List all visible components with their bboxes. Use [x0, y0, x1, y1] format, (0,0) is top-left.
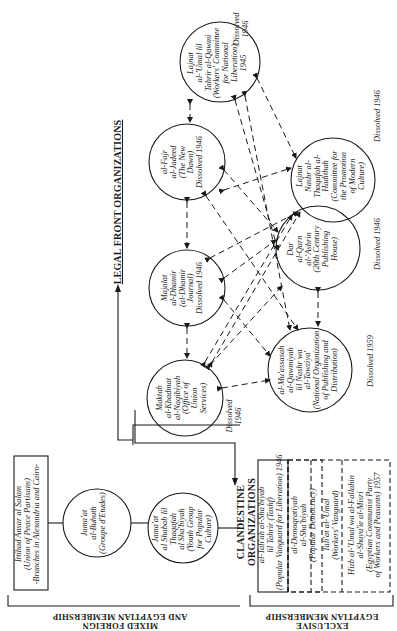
clandestine-taliat-umal: Tali'at al-'Umal (Workers' Vanguard)	[323, 475, 341, 575]
node-fajr: al-Fajr al-Jadeed (The New Dawn) Dissolv…	[161, 124, 215, 200]
status-lajnat-nashr: Dissolved 1946	[374, 76, 386, 156]
node-muassasah: al-Mu'assasah al-Qawmiyah lil Nashr wa a…	[278, 322, 342, 418]
status-maktab: Dissolved 1946	[226, 396, 248, 436]
clandestine-tashf: al-Tali'ah al-Sha'biyah lil Tahrir (Tash…	[258, 460, 286, 590]
status-muassasah: Dissolved 1959	[367, 321, 379, 401]
organization-diagram: LEGAL FRONT ORGANIZATIONS Lajnat al-'Uma…	[0, 0, 397, 631]
node-majalat: Majalat al-Dhamir (al-Dhamir Journal) Di…	[161, 250, 215, 326]
exclusive-membership-label: EXCLUSIVE EGYPTIAN MEMBERSHIP	[252, 608, 392, 630]
mixed-membership-label: MIXED FOREIGN AND EGYPTIAN MEMBERSHIP	[10, 608, 230, 630]
legal-front-heading: LEGAL FRONT ORGANIZATIONS	[113, 117, 127, 287]
clandestine-hizb-umal: Hizb al-'Umal wa al-Fallahin al-Shuyu'ie…	[348, 461, 386, 589]
status-dar-qarn: Dissolved 1946	[374, 204, 386, 284]
jamaat-shabab: Jama'at al Shabab lil Thaqafah al Sha'bi…	[152, 494, 214, 564]
node-lajnat-nashr: Lajnat Nashr al- Thaqafah al- Hadithah (…	[296, 134, 368, 218]
status-lajnat-umal: Dissolved 1946	[233, 7, 255, 51]
node-maktab: Maktab al-Khadmat al-Naqibiyah (Office o…	[156, 362, 216, 434]
jamaat-buhuth: Jama'at al-Buhuth (Groupe d'Etudes)	[81, 488, 113, 558]
ittihad-ansar-salam: Ittihad Ansar al Salam (Union of Peace P…	[15, 458, 47, 590]
node-dar-qarn: Dar al-Qarn al-'Ashrin (20th Century Pub…	[287, 211, 349, 287]
clandestine-demoqratiyah: al-Demoqratiyah al-Sha'biyah (Popular De…	[291, 475, 319, 575]
